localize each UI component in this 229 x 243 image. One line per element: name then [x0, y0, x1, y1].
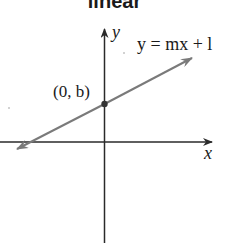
speck	[123, 52, 125, 54]
equation-label: y = mx + l	[137, 34, 212, 55]
y-intercept-point	[101, 101, 107, 107]
intercept-label: (0, b)	[53, 82, 90, 102]
x-axis-label: x	[204, 143, 212, 164]
speck	[8, 107, 10, 109]
linear-function-line	[105, 58, 193, 104]
y-axis-label: y	[112, 22, 120, 43]
